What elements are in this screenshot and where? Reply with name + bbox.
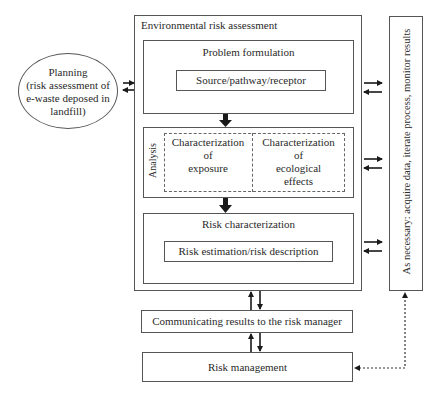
ecological-line-2: of xyxy=(252,149,345,162)
era-title: Environmental risk assessment xyxy=(141,19,277,32)
exposure-line-1: Characterization xyxy=(164,136,252,149)
exposure-line-2: of xyxy=(164,149,252,162)
planning-line-2: e-waste deposed in xyxy=(18,92,118,105)
as-necessary-label: As necessary: acquire data, iterate proc… xyxy=(401,17,412,287)
planning-title: Planning xyxy=(18,66,118,79)
analysis-label: Analysis xyxy=(147,139,158,183)
source-pathway-receptor-label: Source/pathway/receptor xyxy=(176,74,326,87)
ecological-line-3: ecological xyxy=(252,162,345,175)
communicating-results-label: Communicating results to the risk manage… xyxy=(141,315,353,328)
exposure-line-3: exposure xyxy=(164,162,252,175)
planning-line-3: landfill) xyxy=(18,105,118,118)
planning-line-1: (risk assessment of xyxy=(18,79,118,92)
risk-management-label: Risk management xyxy=(142,361,353,374)
ecological-line-1: Characterization xyxy=(252,136,345,149)
risk-characterization-title: Risk characterization xyxy=(143,218,354,231)
problem-formulation-title: Problem formulation xyxy=(143,46,354,59)
ecological-line-4: effects xyxy=(252,175,345,188)
risk-estimation-label: Risk estimation/risk description xyxy=(164,245,333,258)
